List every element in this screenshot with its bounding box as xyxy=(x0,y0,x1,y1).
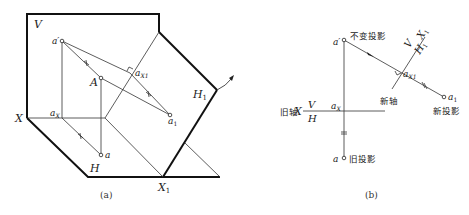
label-new-axis-x1: X1 xyxy=(414,26,431,42)
label-ax: aX xyxy=(50,108,60,119)
label-old-projection: 旧投影 xyxy=(349,154,376,164)
label-old-axis-v: V xyxy=(308,99,317,110)
projector-a-prime-a1 xyxy=(344,40,444,97)
h1-plane-top-edge xyxy=(159,32,217,90)
point-a-prime xyxy=(60,39,64,43)
caption-a: (a) xyxy=(100,190,112,200)
right-angle-mark xyxy=(127,67,133,71)
label-x1-axis: X1 xyxy=(157,181,170,195)
arrow-head-icon xyxy=(229,75,234,81)
label-ax1: aX1 xyxy=(135,68,148,79)
label-a: a xyxy=(333,154,338,164)
point-a1 xyxy=(442,95,446,99)
label-v-plane: V xyxy=(34,18,43,31)
label-h-plane: H xyxy=(89,162,100,175)
equal-tick xyxy=(86,60,87,66)
point-A xyxy=(99,76,103,80)
rotation-arrow xyxy=(217,78,232,90)
new-axis-labels: V H1 X1 xyxy=(401,22,435,57)
h1-extension-line xyxy=(185,143,220,177)
label-x-axis: X xyxy=(14,112,24,125)
projector-a-prime-ax1 xyxy=(62,41,130,73)
figure-b: a′ 不变投影 a 旧投影 旧轴 X V H aX aX1 a1 新轴 新投影 … xyxy=(280,22,460,200)
projector-ax1-a1 xyxy=(130,73,170,115)
label-a-prime: a′ xyxy=(333,37,340,47)
label-old-axis-h: H xyxy=(307,113,317,124)
label-old-axis-x: X xyxy=(293,105,303,118)
h-h1-intersection xyxy=(105,118,163,177)
label-ax1: aX1 xyxy=(403,69,416,80)
h-plane-frame xyxy=(27,118,220,177)
label-a1: a1 xyxy=(168,116,177,127)
label-h1-plane: H1 xyxy=(192,88,207,102)
projector-a-prime-A xyxy=(62,41,101,78)
label-new-axis: 新轴 xyxy=(380,96,398,106)
label-a: a xyxy=(105,150,110,160)
projection-diagram: V X H H1 X1 a′ A a aX aX1 a1 (a) xyxy=(0,0,469,215)
caption-b: (b) xyxy=(365,190,378,200)
label-a1: a1 xyxy=(448,92,457,103)
point-a-prime xyxy=(342,38,346,42)
h1-plane-right-edge xyxy=(163,90,217,177)
label-unchanged-projection: 不变投影 xyxy=(350,31,386,41)
label-ax: aX xyxy=(331,101,341,112)
equal-tick xyxy=(148,91,149,97)
label-new-projection: 新投影 xyxy=(433,106,460,116)
equal-tick xyxy=(80,133,81,139)
projector-A-a1 xyxy=(101,78,170,115)
label-A: A xyxy=(89,76,98,89)
figure-a: V X H H1 X1 a′ A a aX aX1 a1 (a) xyxy=(14,14,234,200)
v-plane-frame xyxy=(27,14,159,118)
label-a-prime: a′ xyxy=(52,36,59,46)
point-a xyxy=(342,156,346,160)
point-a xyxy=(99,153,103,157)
